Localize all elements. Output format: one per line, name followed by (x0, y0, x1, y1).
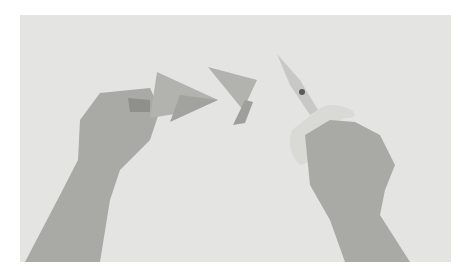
left-hand (25, 88, 160, 262)
photo-scene (0, 0, 471, 279)
scissors-blade (277, 54, 318, 115)
right-hand (305, 120, 410, 262)
